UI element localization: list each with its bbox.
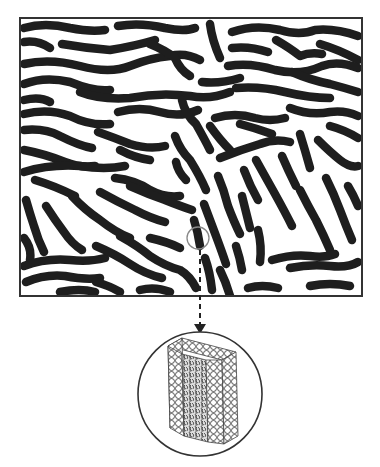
worm-pattern-panel (20, 18, 362, 296)
bilayer-block (168, 338, 238, 444)
bilayer-inset (138, 332, 262, 456)
diagram-figure (0, 0, 380, 467)
